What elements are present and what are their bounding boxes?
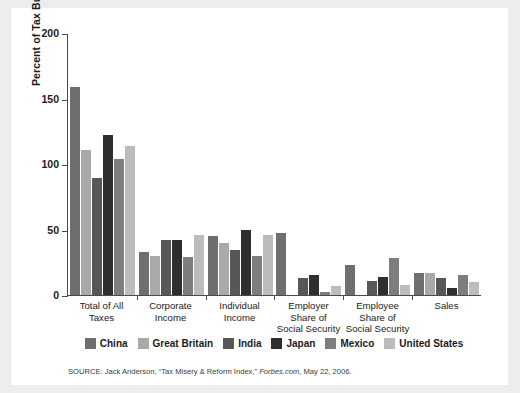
bar[interactable]: [125, 146, 135, 295]
bar[interactable]: [139, 252, 149, 295]
legend-swatch: [85, 338, 96, 349]
bar[interactable]: [252, 256, 262, 295]
y-axis-tick: 0: [34, 296, 68, 297]
bar[interactable]: [389, 258, 399, 295]
legend-swatch: [223, 338, 234, 349]
source-note: SOURCE: Jack Anderson, “Tax Misery & Ref…: [68, 367, 352, 376]
x-axis-category-label: Corporate Income: [136, 300, 205, 335]
legend-swatch: [138, 338, 149, 349]
legend-item[interactable]: Japan: [271, 338, 315, 349]
plot-area: Percent of Tax Burden 050100150200: [67, 34, 481, 296]
legend-label: Japan: [286, 338, 315, 349]
bar[interactable]: [447, 288, 457, 295]
legend-label: China: [100, 338, 128, 349]
legend-label: Mexico: [340, 338, 374, 349]
legend-swatch: [325, 338, 336, 349]
bar[interactable]: [219, 243, 229, 295]
bar[interactable]: [103, 135, 113, 295]
bar[interactable]: [367, 281, 377, 295]
y-axis-tick: 100: [34, 165, 68, 166]
y-axis-tick-label: 150: [41, 93, 59, 105]
bar-group: [137, 34, 206, 295]
bar[interactable]: [161, 240, 171, 295]
bar[interactable]: [469, 282, 479, 295]
y-axis-tick: 50: [34, 231, 68, 232]
y-axis-tick: 150: [34, 100, 68, 101]
legend-item[interactable]: China: [85, 338, 128, 349]
bar[interactable]: [208, 236, 218, 295]
bar[interactable]: [263, 235, 273, 295]
bar[interactable]: [400, 285, 410, 295]
bar[interactable]: [114, 159, 124, 295]
legend-label: Great Britain: [153, 338, 214, 349]
x-axis-labels: Total of All TaxesCorporate IncomeIndivi…: [67, 300, 481, 335]
x-axis-category-label: Sales: [412, 300, 481, 335]
chart-legend: ChinaGreat BritainIndiaJapanMexicoUnited…: [67, 338, 481, 349]
y-axis-tick-label: 200: [41, 27, 59, 39]
bar[interactable]: [414, 273, 424, 295]
bar-group: [274, 34, 343, 295]
bar[interactable]: [230, 250, 240, 295]
bar-group: [68, 34, 137, 295]
legend-label: United States: [399, 338, 463, 349]
x-axis-category-label: Employee Share of Social Security: [343, 300, 412, 335]
bar[interactable]: [194, 235, 204, 295]
bar[interactable]: [92, 178, 102, 295]
y-axis-tick-mark: [62, 296, 68, 297]
y-axis-tick-label: 50: [47, 224, 59, 236]
x-axis-category-label: Total of All Taxes: [67, 300, 136, 335]
y-axis-tick-label: 100: [41, 158, 59, 170]
bar[interactable]: [298, 278, 308, 295]
legend-swatch: [384, 338, 395, 349]
source-publication: Forbes.com: [259, 367, 299, 376]
y-axis-tick-label: 0: [53, 289, 59, 301]
bar-group: [343, 34, 412, 295]
bar[interactable]: [183, 257, 193, 295]
chart-figure: Percent of Tax Burden 050100150200 Total…: [11, 8, 508, 385]
legend-item[interactable]: India: [223, 338, 261, 349]
bar[interactable]: [378, 277, 388, 295]
bar[interactable]: [345, 265, 355, 295]
y-axis-label: Percent of Tax Burden: [30, 0, 42, 86]
bar[interactable]: [150, 256, 160, 295]
bar[interactable]: [241, 230, 251, 296]
x-axis-category-label: Individual Income: [205, 300, 274, 335]
bar-groups: [68, 34, 481, 295]
bar[interactable]: [331, 286, 341, 295]
legend-label: India: [238, 338, 261, 349]
bar-group: [412, 34, 481, 295]
x-axis-category-label: Employer Share of Social Security: [274, 300, 343, 335]
bar[interactable]: [309, 275, 319, 295]
bar[interactable]: [172, 240, 182, 295]
bar[interactable]: [320, 292, 330, 295]
legend-swatch: [271, 338, 282, 349]
bar[interactable]: [70, 87, 80, 295]
bar-group: [206, 34, 275, 295]
legend-item[interactable]: United States: [384, 338, 463, 349]
y-axis-tick: 200: [34, 34, 68, 35]
bar[interactable]: [425, 273, 435, 295]
bar[interactable]: [276, 233, 286, 295]
legend-item[interactable]: Great Britain: [138, 338, 214, 349]
bar[interactable]: [436, 278, 446, 295]
bar[interactable]: [458, 275, 468, 295]
legend-item[interactable]: Mexico: [325, 338, 374, 349]
bar[interactable]: [81, 150, 91, 295]
